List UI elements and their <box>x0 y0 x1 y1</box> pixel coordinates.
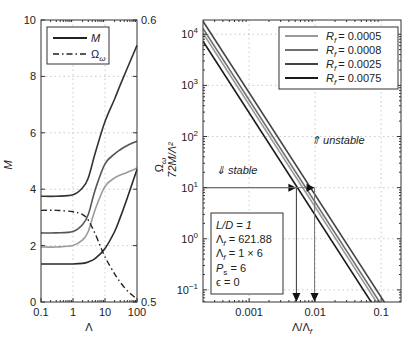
param-lf2-val: = 1 × 6 <box>226 247 263 259</box>
param-ld: L/D = 1 <box>216 219 252 231</box>
left-y-tick-label: 6 <box>30 127 36 139</box>
legend-label-m: M <box>91 32 101 44</box>
rf-value: = 0.0005 <box>338 30 381 42</box>
right-x-tick-label: 0.001 <box>235 306 263 318</box>
right-plot: 0.0010.010.110−1100101102103104 Rf= 0.00… <box>166 20 401 341</box>
rf-value: = 0.0025 <box>338 58 381 70</box>
tick-exponent: 0 <box>194 231 199 240</box>
stable-annotation: ⇓ stable <box>216 164 257 176</box>
threshold-arrowhead <box>307 184 315 192</box>
right-y-tick-label: 102 <box>181 129 198 143</box>
left-series <box>41 45 137 299</box>
param-lf1-val: = 621.88 <box>226 233 272 245</box>
m-curve-4 <box>41 169 137 264</box>
m-curve-2 <box>41 141 137 233</box>
drop-arrowhead <box>292 293 300 302</box>
m-curve-3 <box>41 168 137 247</box>
omega-curve <box>41 210 137 299</box>
legend-omega-main: Ω <box>91 48 99 60</box>
left-y-tick-label: 10 <box>24 14 36 26</box>
right-y-tick-label: 103 <box>181 77 198 91</box>
tick-exponent: −1 <box>189 282 199 291</box>
tick-base: 10 <box>181 233 193 245</box>
right-y-tick-label: 100 <box>181 231 198 245</box>
tick-base: 10 <box>181 182 193 194</box>
left-legend: M Ωω <box>47 27 109 64</box>
tick-exponent: 2 <box>194 129 199 138</box>
left-x-tick-label: 10 <box>99 306 111 318</box>
left-y-tick-label: 4 <box>30 183 36 195</box>
rf-main: R <box>326 72 334 84</box>
tick-base: 10 <box>177 284 189 296</box>
rf-value: = 0.0008 <box>338 44 381 56</box>
tick-base: 10 <box>181 79 193 91</box>
left-x-tick-label: 1 <box>70 306 76 318</box>
tick-base: 10 <box>181 28 193 40</box>
left-plot: 0.111010002468100.50.6 M Ωω Λ M Ωω <box>2 14 168 333</box>
left-x-axis-label: Λ <box>85 321 93 333</box>
left-y-tick-label: 8 <box>30 70 36 82</box>
right-y-tick-label: 10−1 <box>177 282 199 296</box>
right-x-tick-label: 0.1 <box>373 306 388 318</box>
rf-value: = 0.0075 <box>338 72 381 84</box>
tick-exponent: 1 <box>194 180 199 189</box>
rf-main: R <box>326 58 334 70</box>
right-y-axis-label: 72M/Λ² <box>166 142 178 178</box>
right-xlabel-main: Λ/Λ <box>292 321 310 333</box>
left-y2-tick-label: 0.5 <box>141 296 156 308</box>
parameter-box: L/D = 1 Λf = 621.88 Λf = 1 × 6 Ps = 6 ϵ … <box>211 213 283 294</box>
rf-main: R <box>326 30 334 42</box>
param-ps-val: = 6 <box>227 262 246 274</box>
y2-label-main: Ω <box>153 164 165 172</box>
right-y-tick-label: 101 <box>181 180 198 194</box>
left-y-tick-label: 0 <box>30 296 36 308</box>
unstable-annotation: ⇑ unstable <box>311 134 365 146</box>
tick-exponent: 3 <box>194 77 199 86</box>
right-xlabel-sub: f <box>310 327 313 336</box>
param-epsilon: ϵ = 0 <box>216 276 240 288</box>
tick-base: 10 <box>181 131 193 143</box>
right-legend: Rf= 0.0005 Rf= 0.0008 Rf= 0.0025 Rf= 0.0… <box>279 27 398 89</box>
figure: 0.111010002468100.50.6 M Ωω Λ M Ωω 0.001… <box>0 0 417 352</box>
left-y-tick-label: 2 <box>30 240 36 252</box>
right-x-axis-label: Λ/Λf <box>292 321 313 336</box>
right-x-tick-label: 0.01 <box>304 306 325 318</box>
left-y-axis-label: M <box>2 160 14 170</box>
tick-exponent: 4 <box>194 26 199 35</box>
legend-omega-sub: ω <box>99 54 105 63</box>
rf-main: R <box>326 44 334 56</box>
right-y-tick-label: 104 <box>181 26 198 40</box>
left-y2-tick-label: 0.6 <box>141 14 156 26</box>
